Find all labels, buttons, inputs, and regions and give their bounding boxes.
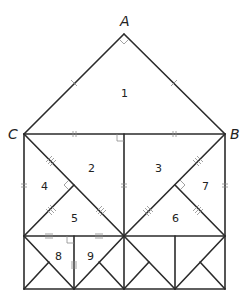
region-label-2: 2 bbox=[88, 162, 95, 175]
vertex-label-c: C bbox=[8, 126, 18, 142]
region-label-7: 7 bbox=[202, 180, 209, 193]
region-label-3: 3 bbox=[155, 162, 162, 175]
region-label-8: 8 bbox=[55, 250, 62, 263]
region-label-1: 1 bbox=[121, 87, 128, 100]
vertex-label-b: B bbox=[230, 126, 240, 142]
region-label-6: 6 bbox=[172, 212, 179, 225]
region-label-5: 5 bbox=[71, 212, 78, 225]
triangle-acb bbox=[24, 34, 225, 134]
region-label-9: 9 bbox=[87, 250, 94, 263]
geometry-diagram: A C B 1 2 3 4 5 6 7 8 9 bbox=[0, 0, 250, 304]
region-label-4: 4 bbox=[41, 180, 48, 193]
vertex-label-a: A bbox=[119, 13, 130, 29]
square-body bbox=[24, 134, 225, 289]
